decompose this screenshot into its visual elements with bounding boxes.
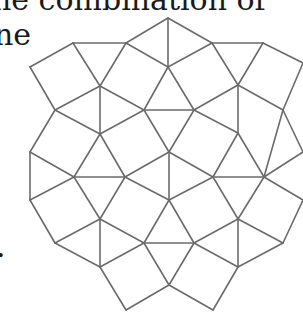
tiling-edge	[169, 200, 194, 243]
tiling-edge	[74, 177, 100, 219]
tiling-edge	[168, 67, 194, 110]
tiling-edge	[126, 43, 168, 67]
tiling-edge	[30, 43, 73, 67]
tiling-edge	[194, 219, 238, 243]
tiling-edge	[100, 86, 144, 110]
tiling-edge	[238, 219, 283, 243]
tiling-edge	[55, 219, 100, 243]
tiling-edge	[125, 152, 169, 177]
tiling-edge	[100, 177, 125, 219]
tiling-edge	[212, 43, 238, 85]
tiling-edge	[100, 110, 144, 134]
tiling-edge	[144, 67, 168, 110]
tiling-edge	[55, 243, 100, 267]
tiling-edge	[213, 177, 238, 219]
tiling-edge	[169, 152, 213, 177]
tiling-edge	[283, 110, 303, 152]
tiling-edge	[263, 43, 303, 63]
tiling-edge	[30, 177, 74, 200]
tiling-edge	[144, 200, 169, 243]
tiling-edge	[169, 243, 194, 285]
tiling-edge	[100, 267, 126, 310]
tiling-edge	[30, 67, 55, 110]
tiling-edge	[238, 133, 264, 177]
tiling-edge	[238, 43, 263, 85]
tiling-edge	[144, 243, 169, 285]
tiling-edge	[238, 177, 264, 219]
tiling-edge	[238, 243, 283, 267]
tiling-edge	[194, 85, 238, 110]
tiling-edge	[125, 177, 169, 200]
tiling-edge	[168, 43, 212, 67]
tiling-edge	[126, 285, 169, 310]
tiling-edge	[194, 243, 238, 267]
tiling-edge	[126, 18, 168, 43]
tiling-edge	[55, 86, 100, 110]
tiling-edge	[100, 219, 144, 243]
tiling-edge	[74, 134, 100, 177]
tiling-edge	[169, 110, 194, 152]
tiling-edge	[283, 200, 303, 243]
tiling-edge	[169, 285, 213, 310]
tiling-edge	[194, 110, 238, 133]
tiling-edge	[55, 110, 100, 134]
tiling-edge	[100, 243, 144, 267]
tiling-edge	[30, 152, 74, 177]
tiling-edge	[168, 18, 212, 43]
tiling-figure	[0, 0, 303, 330]
tiling-edge	[283, 63, 303, 110]
tiling-edge	[100, 134, 125, 177]
tiling-edge	[144, 110, 169, 152]
tiling-edges	[30, 18, 303, 310]
tiling-edge	[73, 43, 100, 86]
tiling-edge	[264, 177, 303, 200]
tiling-edge	[100, 43, 126, 86]
tiling-edge	[169, 177, 213, 200]
tiling-edge	[30, 110, 55, 152]
tiling-edge	[213, 133, 238, 177]
tiling-edge	[30, 200, 55, 243]
tiling-edge	[213, 267, 238, 310]
tiling-edge	[238, 85, 283, 110]
